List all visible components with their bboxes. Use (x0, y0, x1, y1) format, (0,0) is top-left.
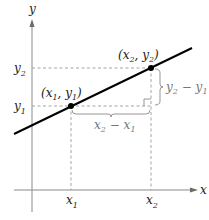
y1-tick-label: y1 (13, 99, 26, 116)
run-label: x2 − x1 (94, 118, 135, 134)
slope-diagram: y x y2 y1 x1 x2 (x1, y1) (x2, y2) y2 − y… (0, 0, 209, 220)
y2-tick-label: y2 (13, 61, 26, 78)
y-axis-label: y (28, 2, 36, 16)
x-axis-label: x (200, 183, 207, 197)
rise-bracket (155, 69, 163, 105)
run-bracket (72, 110, 150, 117)
point-2-label: (x2, y2) (118, 48, 159, 64)
x1-tick-label: x1 (66, 193, 78, 210)
point-1-label: (x1, y1) (41, 86, 82, 102)
point-2-marker (148, 65, 154, 71)
point-1-marker (68, 103, 74, 109)
axes (14, 19, 198, 212)
x-axis-arrow-icon (190, 188, 198, 193)
rise-label: y2 − y1 (165, 80, 207, 96)
x2-tick-label: x2 (146, 193, 158, 210)
right-angle-marker (144, 99, 151, 106)
y-axis-arrow-icon (30, 19, 35, 27)
